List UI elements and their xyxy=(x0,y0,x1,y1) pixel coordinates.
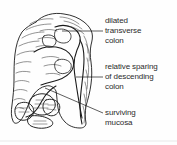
annotation-surviving-mucosa: surviving mucosa xyxy=(105,108,136,128)
transverse-colon-tract xyxy=(34,47,74,85)
annotation-line: mucosa xyxy=(105,118,136,128)
annotation-line: transverse xyxy=(105,26,141,36)
haustral-fold xyxy=(16,62,31,64)
annotation-line: of descending xyxy=(105,72,158,82)
mucosa-texture xyxy=(47,109,56,110)
haustral-fold xyxy=(19,41,39,46)
annotation-line: surviving xyxy=(105,108,136,118)
flexure-detail xyxy=(42,35,56,47)
descending-colon-tract xyxy=(80,40,84,124)
haustral-fold xyxy=(16,71,30,73)
flexure-detail xyxy=(55,59,72,73)
colon-figure: dilated transverse colon relative sparin… xyxy=(0,0,177,145)
annotation-line: colon xyxy=(105,36,141,46)
haustral-fold xyxy=(15,81,29,83)
annotation-dilated-transverse-colon: dilated transverse colon xyxy=(105,16,141,46)
haustral-fold xyxy=(83,106,85,123)
haustral-fold xyxy=(46,73,60,75)
annotation-relative-sparing-descending-colon: relative sparing of descending colon xyxy=(105,62,158,92)
haustral-fold xyxy=(17,51,34,55)
haustral-fold xyxy=(42,57,59,59)
annotation-line: relative sparing xyxy=(105,62,158,72)
annotation-line: dilated xyxy=(105,16,141,26)
haustral-fold xyxy=(60,17,79,24)
haustral-fold xyxy=(38,38,55,40)
surviving-mucosa-island xyxy=(43,99,60,116)
haustral-fold xyxy=(44,65,61,67)
haustral-fold xyxy=(22,32,44,38)
haustral-fold xyxy=(14,90,27,92)
annotation-line: colon xyxy=(105,82,158,92)
surviving-mucosa-island xyxy=(29,94,56,115)
haustral-fold xyxy=(14,99,25,101)
surviving-mucosa-island xyxy=(15,102,34,120)
haustral-fold xyxy=(40,30,57,32)
haustral-fold xyxy=(26,24,51,30)
